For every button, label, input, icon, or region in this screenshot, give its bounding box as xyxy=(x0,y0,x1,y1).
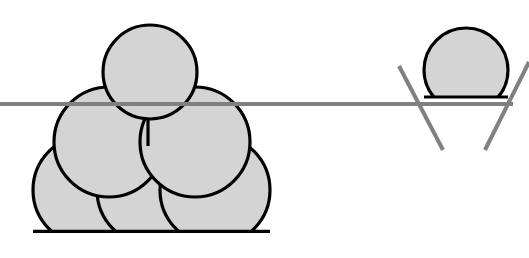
figure-root xyxy=(0,0,529,258)
figure-canvas xyxy=(0,0,529,258)
